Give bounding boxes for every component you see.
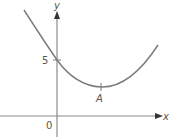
minimum-point-label: A bbox=[95, 93, 103, 104]
x-axis-label: x bbox=[162, 111, 169, 122]
origin-label: 0 bbox=[46, 120, 52, 131]
x-axis-arrow-icon bbox=[155, 113, 163, 119]
y-axis-arrow-icon bbox=[54, 11, 60, 19]
function-graph: y x 0 5 A bbox=[0, 0, 170, 137]
y-axis-label: y bbox=[53, 0, 61, 11]
parabola-curve bbox=[24, 10, 158, 87]
y-intercept-label: 5 bbox=[42, 55, 48, 66]
